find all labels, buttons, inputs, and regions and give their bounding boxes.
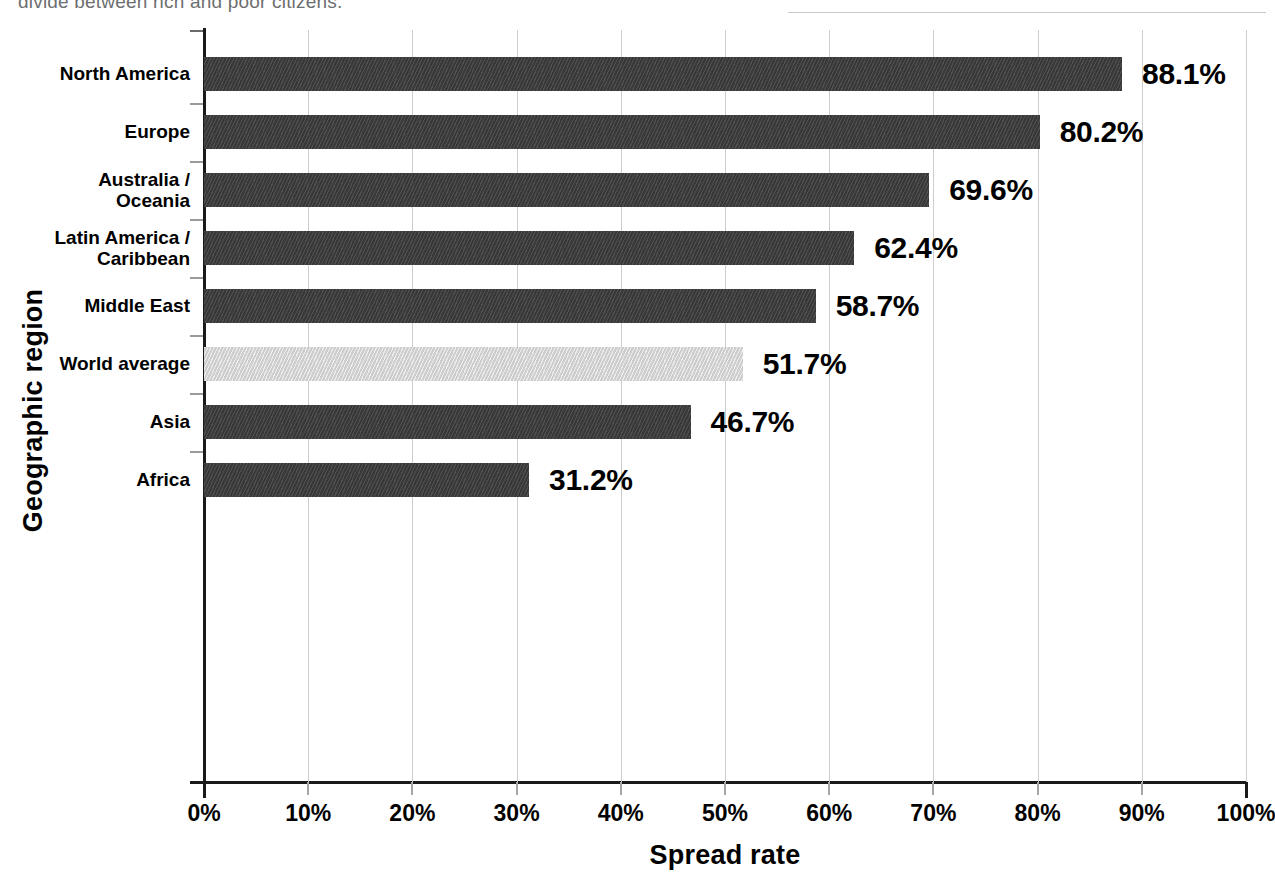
x-tick-label-60%: 60% xyxy=(806,800,852,827)
y-axis-tick xyxy=(190,393,203,395)
x-tick-label-10%: 10% xyxy=(285,800,331,827)
bar-row: 51.7% xyxy=(204,347,1246,405)
x-tick-30% xyxy=(516,782,518,795)
y-axis-category-label: Latin America / Caribbean xyxy=(0,227,190,270)
y-axis-tick xyxy=(190,103,203,105)
bar-value-label: 88.1% xyxy=(1142,57,1226,91)
x-tick-label-90%: 90% xyxy=(1119,800,1165,827)
y-axis-category-label: World average xyxy=(0,353,190,374)
bar[interactable] xyxy=(204,347,743,381)
y-axis-category-label: North America xyxy=(0,63,190,84)
gridline-100% xyxy=(1246,30,1247,782)
bar-row: 69.6% xyxy=(204,173,1246,231)
bar-value-label: 46.7% xyxy=(711,405,795,439)
x-tick-label-40%: 40% xyxy=(598,800,644,827)
x-tick-60% xyxy=(828,782,830,795)
x-tick-40% xyxy=(620,782,622,795)
bar[interactable] xyxy=(204,405,691,439)
plot-area: 88.1%80.2%69.6%62.4%58.7%51.7%46.7%31.2% xyxy=(204,30,1246,782)
bar-row: 46.7% xyxy=(204,405,1246,463)
bar-value-label: 31.2% xyxy=(549,463,633,497)
y-axis-tick xyxy=(190,219,203,221)
x-tick-label-20%: 20% xyxy=(389,800,435,827)
bar-row: 62.4% xyxy=(204,231,1246,289)
bar[interactable] xyxy=(204,115,1040,149)
bar-row: 31.2% xyxy=(204,463,1246,521)
y-axis-category-label: Africa xyxy=(0,469,190,490)
bar-value-label: 69.6% xyxy=(949,173,1033,207)
x-tick-10% xyxy=(307,782,309,795)
x-tick-70% xyxy=(932,782,934,795)
x-tick-0% xyxy=(203,782,206,798)
x-tick-20% xyxy=(411,782,413,795)
x-tick-label-80%: 80% xyxy=(1015,800,1061,827)
bar-value-label: 51.7% xyxy=(763,347,847,381)
y-axis-category-label: Middle East xyxy=(0,295,190,316)
bar[interactable] xyxy=(204,57,1122,91)
x-tick-label-100%: 100% xyxy=(1217,800,1275,827)
bar-value-label: 58.7% xyxy=(836,289,920,323)
y-axis-tick xyxy=(190,161,203,163)
x-tick-90% xyxy=(1141,782,1143,795)
y-axis-tick xyxy=(190,277,203,279)
bar-row: 88.1% xyxy=(204,57,1246,115)
x-tick-80% xyxy=(1037,782,1039,795)
bar-row: 80.2% xyxy=(204,115,1246,173)
x-tick-100% xyxy=(1245,782,1248,798)
bar[interactable] xyxy=(204,231,854,265)
x-tick-label-30%: 30% xyxy=(494,800,540,827)
x-tick-50% xyxy=(724,782,726,795)
x-axis-title: Spread rate xyxy=(204,840,1246,871)
bar-value-label: 62.4% xyxy=(874,231,958,265)
y-axis-category-label: Europe xyxy=(0,121,190,142)
y-axis-tick xyxy=(190,335,203,337)
bar[interactable] xyxy=(204,289,816,323)
y-axis-category-label: Australia / Oceania xyxy=(0,169,190,212)
bar-value-label: 80.2% xyxy=(1060,115,1144,149)
bar[interactable] xyxy=(204,463,529,497)
x-tick-label-70%: 70% xyxy=(910,800,956,827)
y-axis-tick-top xyxy=(190,30,203,32)
y-axis-category-label: Asia xyxy=(0,411,190,432)
y-axis-tick xyxy=(190,451,203,453)
x-tick-label-0%: 0% xyxy=(187,800,220,827)
bar[interactable] xyxy=(204,173,929,207)
bar-row: 58.7% xyxy=(204,289,1246,347)
x-tick-label-50%: 50% xyxy=(702,800,748,827)
